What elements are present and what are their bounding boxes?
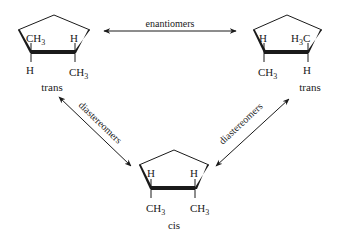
substituent-h-up: H: [259, 32, 267, 44]
substituent-h-down: H: [26, 64, 34, 76]
isomer-label-cis: cis: [168, 219, 180, 231]
arrow-enantiomers: enantiomers: [104, 18, 236, 31]
substituent-h3c-up: H3C: [291, 32, 310, 47]
molecule-right-trans: H H3C CH3 H trans: [253, 15, 322, 93]
substituent-h-up: H: [70, 32, 78, 44]
stereoisomer-diagram: CH3 H H CH3 trans H H3C CH3 H trans: [0, 0, 338, 242]
arrow-diastereomers-left: diastereomers: [59, 97, 131, 166]
molecule-bottom-cis: H H CH3 CH3 cis: [139, 150, 209, 231]
substituent-ch3-down: CH3: [258, 66, 277, 81]
molecule-left-trans: CH3 H H CH3 trans: [18, 15, 90, 93]
substituent-ch3-down-left: CH3: [146, 202, 165, 217]
substituent-ch3-down-right: CH3: [190, 202, 209, 217]
relation-label-diastereomers-right: diastereomers: [217, 100, 265, 146]
isomer-label-trans-right: trans: [299, 81, 320, 93]
substituent-ch3-down: CH3: [69, 66, 88, 81]
substituent-ch3-up: CH3: [26, 32, 45, 47]
substituent-h-down: H: [303, 64, 311, 76]
substituent-h-up-right: H: [190, 167, 198, 179]
relation-label-diastereomers-left: diastereomers: [77, 99, 125, 146]
isomer-label-trans-left: trans: [41, 81, 62, 93]
substituent-h-up-left: H: [147, 167, 155, 179]
relation-label-enantiomers: enantiomers: [146, 18, 195, 29]
arrow-diastereomers-right: diastereomers: [216, 99, 289, 166]
